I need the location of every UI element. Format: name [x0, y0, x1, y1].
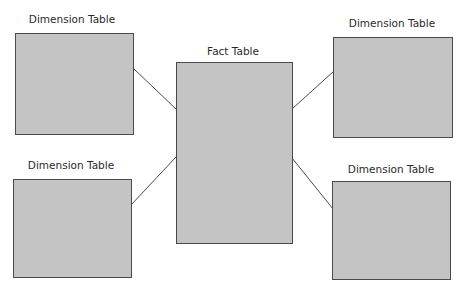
fact-table-label: Fact Table [207, 45, 259, 57]
fact-table [176, 62, 293, 244]
dimension-label-top-left: Dimension Table [29, 13, 115, 25]
dimension-label-bottom-right: Dimension Table [348, 163, 434, 175]
dimension-table-top-right [333, 37, 453, 138]
dimension-table-bottom-left [13, 179, 132, 278]
connector-bottom-right [292, 158, 333, 209]
connector-bottom-left [131, 157, 176, 205]
dimension-table-bottom-right [332, 181, 451, 280]
dimension-label-bottom-left: Dimension Table [28, 159, 114, 171]
connector-top-left [133, 68, 176, 109]
dimension-table-top-left [15, 33, 134, 135]
connector-top-right [292, 71, 334, 109]
dimension-label-top-right: Dimension Table [349, 17, 435, 29]
